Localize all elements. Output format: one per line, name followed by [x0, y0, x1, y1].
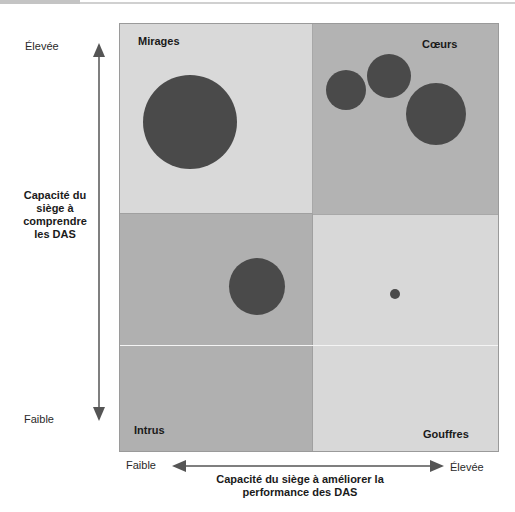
- bubble-mirages: [143, 75, 237, 169]
- y-axis-arrow-icon: [89, 43, 109, 423]
- bubble-gouffres: [390, 289, 400, 299]
- y-axis-title-line: siège à: [20, 202, 90, 215]
- quadrant-intrus: [120, 214, 313, 451]
- quadrant-label-coeurs: Cœurs: [422, 38, 457, 50]
- page-edge-line: [80, 2, 515, 4]
- y-axis-title: Capacité du siège à comprendre les DAS: [20, 189, 90, 241]
- y-axis-high-label: Élevée: [25, 40, 59, 52]
- bubble-coeurs-2: [367, 54, 411, 98]
- y-axis-title-line: comprendre: [20, 215, 90, 228]
- quadrant-label-gouffres: Gouffres: [423, 428, 469, 440]
- bubble-coeurs-1: [326, 70, 366, 110]
- x-axis-high-label: Élevée: [450, 461, 484, 473]
- y-axis-title-line: Capacité du: [20, 189, 90, 202]
- x-axis-title-line: performance des DAS: [200, 486, 400, 499]
- matrix-grid: Mirages Cœurs Intrus Gouffres: [119, 23, 499, 452]
- x-axis-arrow-icon: [172, 458, 444, 474]
- x-axis-title-line: Capacité du siège à améliorer la: [200, 473, 400, 486]
- x-axis-low-label: Faible: [126, 459, 156, 471]
- quadrant-label-mirages: Mirages: [138, 35, 180, 47]
- y-axis-title-line: les DAS: [20, 228, 90, 241]
- horizontal-divider-line: [120, 345, 498, 346]
- page-edge-decoration: [0, 0, 80, 4]
- quadrant-gouffres: [313, 215, 498, 451]
- x-axis-title: Capacité du siège à améliorer la perform…: [200, 473, 400, 499]
- bubble-coeurs-3: [406, 83, 466, 145]
- quadrant-label-intrus: Intrus: [134, 424, 165, 436]
- bubble-intrus: [229, 258, 285, 315]
- y-axis-low-label: Faible: [24, 413, 54, 425]
